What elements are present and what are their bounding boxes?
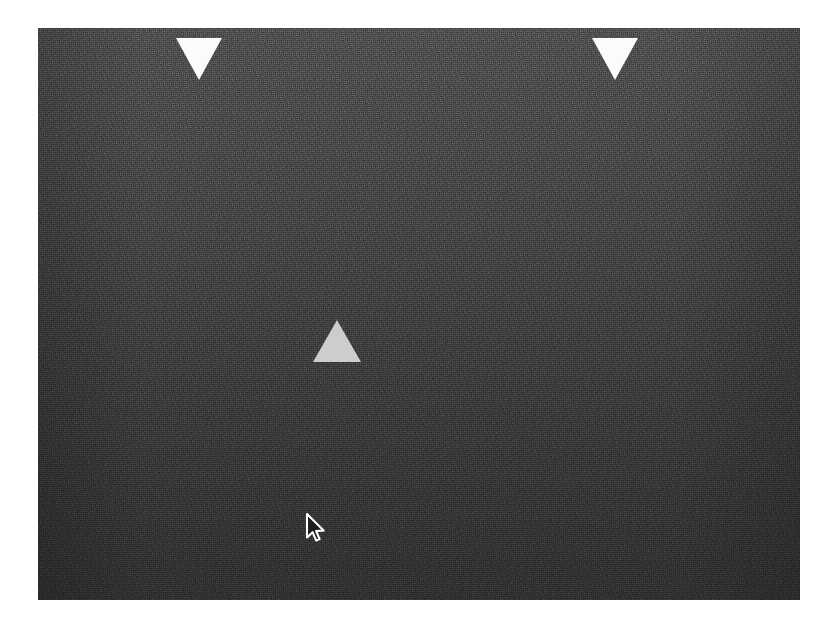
screen-root xyxy=(0,0,836,628)
field-vignette xyxy=(38,28,800,600)
stimulus-field[interactable] xyxy=(38,28,800,600)
